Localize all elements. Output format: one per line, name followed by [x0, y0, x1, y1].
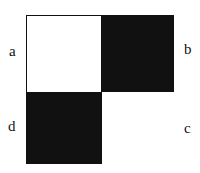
cell-bottom-left-black: [27, 92, 102, 164]
label-c: c: [184, 121, 191, 136]
cell-bottom-right-white: [102, 92, 174, 164]
checkerboard-square: [26, 15, 174, 164]
cell-top-right-black: [101, 16, 174, 92]
label-a: a: [9, 44, 16, 59]
label-d: d: [8, 119, 16, 134]
cell-top-left-white: [27, 16, 101, 92]
label-b: b: [184, 42, 192, 57]
